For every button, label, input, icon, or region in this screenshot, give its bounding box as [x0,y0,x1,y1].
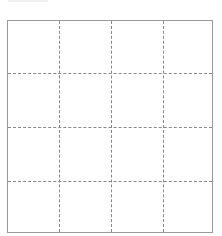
clipped-header-strip [8,0,48,2]
grid-canvas[interactable] [7,20,213,233]
grid-horizontal-line-1 [8,73,212,74]
grid-horizontal-line-3 [8,181,212,182]
grid-horizontal-line-2 [8,127,212,128]
